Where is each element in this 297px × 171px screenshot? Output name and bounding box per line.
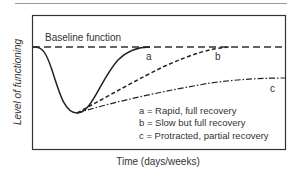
recovery-diagram: Baseline function a b c a = Rapid, full …	[0, 0, 297, 171]
baseline-label: Baseline function	[45, 32, 121, 43]
curve-a-label: a	[146, 51, 152, 62]
curve-a	[33, 47, 150, 113]
legend-item-c: c = Protracted, partial recovery	[139, 130, 269, 141]
legend-item-a: a = Rapid, full recovery	[139, 105, 237, 116]
curve-c-label: c	[270, 83, 275, 94]
curve-b	[77, 47, 230, 113]
curve-b-label: b	[215, 51, 221, 62]
x-axis-label: Time (days/weeks)	[116, 156, 200, 167]
y-axis-label: Level of functioning	[12, 38, 23, 125]
legend-item-b: b = Slow but full recovery	[139, 117, 246, 128]
